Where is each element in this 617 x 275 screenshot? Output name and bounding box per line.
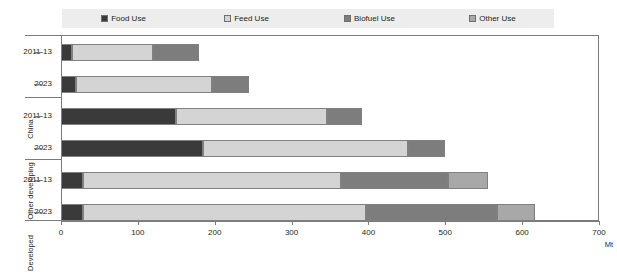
value-axis-tick-label: 400 <box>348 228 388 238</box>
value-axis-tick-label: 700 <box>579 228 617 238</box>
legend-label: Other Use <box>479 14 515 23</box>
bar-segment-feed-use[interactable] <box>83 204 366 221</box>
bar-segment-biofuel-use[interactable] <box>212 76 249 93</box>
value-axis-tick-label: 600 <box>502 228 542 238</box>
value-axis-tick <box>522 221 523 225</box>
category-tick <box>34 148 42 149</box>
legend-swatch-icon <box>469 15 476 22</box>
bar-segment-biofuel-use[interactable] <box>341 172 449 189</box>
category-tick <box>34 180 42 181</box>
bar-segment-food-use[interactable] <box>61 140 203 157</box>
bar-segment-food-use[interactable] <box>61 44 72 61</box>
bar-segment-feed-use[interactable] <box>72 44 153 61</box>
legend-item-other-use[interactable]: Other Use <box>431 14 554 23</box>
value-axis-tick-label: 200 <box>195 228 235 238</box>
category-tick <box>34 52 42 53</box>
bar-segment-biofuel-use[interactable] <box>153 44 199 61</box>
category-tick-labels: 2011-1320232011-1320232011-132023 <box>0 35 56 221</box>
bar-segment-other-use[interactable] <box>497 204 535 221</box>
bar-segment-other-use[interactable] <box>448 172 487 189</box>
value-axis-tick <box>292 221 293 225</box>
category-tick <box>34 84 42 85</box>
value-axis-tick-label: 300 <box>272 228 312 238</box>
legend-label: Biofuel Use <box>354 14 395 23</box>
bar-series-container <box>61 35 599 221</box>
value-axis-tick-label: 500 <box>425 228 465 238</box>
value-axis-tick-label: 0 <box>41 228 81 238</box>
bar-segment-biofuel-use[interactable] <box>366 204 497 221</box>
legend-item-food-use[interactable]: Food Use <box>62 14 185 23</box>
legend-item-biofuel-use[interactable]: Biofuel Use <box>308 14 431 23</box>
category-tick <box>34 212 42 213</box>
bar-segment-food-use[interactable] <box>61 108 176 125</box>
bar-segment-feed-use[interactable] <box>83 172 340 189</box>
value-axis-line <box>61 221 599 222</box>
category-tick <box>34 116 42 117</box>
bar-segment-food-use[interactable] <box>61 172 83 189</box>
legend-label: Feed Use <box>234 14 269 23</box>
value-axis-tick-label: 100 <box>118 228 158 238</box>
value-axis-tick <box>368 221 369 225</box>
legend-swatch-icon <box>224 15 231 22</box>
group-axis-label: Developed <box>25 222 37 275</box>
legend-item-feed-use[interactable]: Feed Use <box>185 14 308 23</box>
value-axis-tick <box>138 221 139 225</box>
bar-segment-food-use[interactable] <box>61 204 83 221</box>
bar-segment-biofuel-use[interactable] <box>327 108 362 125</box>
legend-swatch-icon <box>101 15 108 22</box>
bar-segment-feed-use[interactable] <box>176 108 327 125</box>
value-axis-tick <box>445 221 446 225</box>
bar-segment-biofuel-use[interactable] <box>408 140 445 157</box>
bar-segment-feed-use[interactable] <box>76 76 212 93</box>
legend-label: Food Use <box>111 14 146 23</box>
chart-legend: Food UseFeed UseBiofuel UseOther Use <box>62 9 554 28</box>
bar-segment-feed-use[interactable] <box>203 140 407 157</box>
legend-swatch-icon <box>344 15 351 22</box>
value-axis-tick <box>599 221 600 225</box>
bar-segment-food-use[interactable] <box>61 76 76 93</box>
axis-unit-label: Mt <box>605 240 613 249</box>
value-axis-tick <box>61 221 62 225</box>
value-axis-tick <box>215 221 216 225</box>
